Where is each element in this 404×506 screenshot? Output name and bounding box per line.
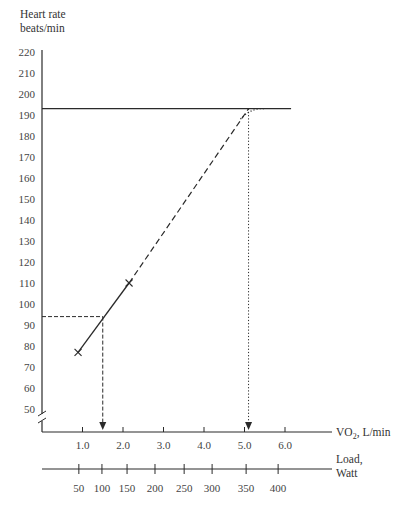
x-axis-vo2: 1.02.03.04.05.06.0VO2, L/min bbox=[42, 426, 391, 451]
load-tick-label: 150 bbox=[119, 482, 136, 494]
y-tick-label: 150 bbox=[19, 193, 36, 205]
load-tick-label: 300 bbox=[204, 482, 221, 494]
chart: Heart ratebeats/min 50607080901001101201… bbox=[0, 0, 404, 506]
y-axis-title: Heart ratebeats/min bbox=[20, 8, 66, 34]
y-tick-label: 60 bbox=[24, 382, 36, 394]
y-axis-title-line: Heart rate bbox=[20, 8, 66, 20]
y-axis-title-line: beats/min bbox=[20, 22, 65, 34]
load-tick-label: 50 bbox=[73, 482, 85, 494]
load-tick-label: 250 bbox=[176, 482, 193, 494]
y-tick-label: 90 bbox=[24, 319, 36, 331]
y-tick-label: 130 bbox=[19, 235, 36, 247]
data-series bbox=[78, 109, 265, 353]
x-tick-label: 4.0 bbox=[197, 439, 211, 451]
y-tick-label: 70 bbox=[24, 361, 36, 373]
y-tick-label: 220 bbox=[19, 46, 36, 58]
load-axis-title-line: Load, bbox=[336, 453, 363, 466]
load-tick-label: 200 bbox=[147, 482, 164, 494]
load-axis-title-line: Watt bbox=[336, 467, 358, 479]
y-tick-label: 160 bbox=[19, 172, 36, 184]
x-tick-label: 2.0 bbox=[116, 439, 130, 451]
load-tick-label: 400 bbox=[270, 482, 287, 494]
series-line-dashed bbox=[129, 109, 248, 283]
y-axis-tick-labels: 5060708090100110120130140150160170180190… bbox=[19, 46, 36, 415]
y-tick-label: 200 bbox=[19, 88, 36, 100]
reference-lines bbox=[42, 109, 291, 430]
y-tick-label: 120 bbox=[19, 256, 36, 268]
y-tick-label: 80 bbox=[24, 340, 36, 352]
series-line-dotted bbox=[240, 109, 264, 120]
x-tick-label: 3.0 bbox=[157, 439, 171, 451]
y-axis bbox=[38, 50, 46, 432]
y-tick-label: 140 bbox=[19, 214, 36, 226]
y-tick-label: 210 bbox=[19, 67, 36, 79]
y-tick-label: 170 bbox=[19, 151, 36, 163]
y-tick-label: 180 bbox=[19, 130, 36, 142]
x-marker-icon bbox=[75, 349, 82, 356]
arrow-down-icon bbox=[245, 422, 252, 430]
load-tick-label: 100 bbox=[94, 482, 111, 494]
load-tick-label: 350 bbox=[238, 482, 255, 494]
y-tick-label: 190 bbox=[19, 109, 36, 121]
x-axis-load: 50100150200250300350400Load,Watt bbox=[42, 453, 363, 494]
x-tick-label: 5.0 bbox=[238, 439, 252, 451]
x-axis-title: VO2, L/min bbox=[336, 426, 391, 441]
x-tick-label: 6.0 bbox=[278, 439, 292, 451]
x-tick-label: 1.0 bbox=[76, 439, 90, 451]
x-marker-icon bbox=[126, 280, 133, 287]
series-line-solid bbox=[78, 283, 129, 352]
y-tick-label: 100 bbox=[19, 298, 36, 310]
arrow-down-icon bbox=[99, 422, 106, 430]
y-tick-label: 50 bbox=[24, 403, 36, 415]
y-tick-label: 110 bbox=[19, 277, 36, 289]
